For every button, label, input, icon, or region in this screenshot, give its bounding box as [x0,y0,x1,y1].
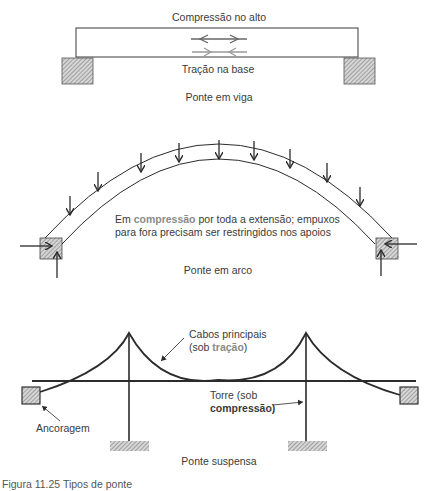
tower-label-line1: Torre (sob [210,389,257,402]
beam-support-right [344,58,375,84]
cables-label-line1: Cabos principais [189,328,267,341]
beam-top-label: Compressão no alto [172,11,266,24]
figure-caption: Figura 11.25 Tipos de ponte [2,478,132,491]
tower-label-line2: compressão) [210,402,275,415]
beam-bridge-title: Ponte em viga [185,91,252,104]
compression-accent: compressão [134,213,196,225]
arch-bridge [20,140,417,278]
arch-bridge-title: Ponte em arco [184,264,252,277]
arch-note-line1: Em compressão por toda a extensão; empux… [115,213,340,226]
cables-leader-arrow [161,338,184,361]
load-arrows-icon [70,140,360,215]
tower-footing-right [288,441,327,451]
cables-label-line2: (sob tração) [189,341,247,354]
tower-leader-arrow [273,402,303,405]
tower-footing-left [110,441,149,451]
anchorage-label: Ancoragem [36,422,90,435]
tension-accent: tração [212,341,244,353]
beam-bottom-label: Tração na base [182,63,255,76]
arch-support-right [376,238,398,259]
beam [76,28,358,57]
anchorage-leader-arrow [42,406,60,421]
anchorage-right [400,387,418,404]
suspension-bridge-title: Ponte suspensa [181,455,256,468]
anchorage-left [22,387,40,404]
arch-note-line2: para fora precisam ser restringidos nos … [115,226,331,239]
arch-support-left [40,238,62,259]
beam-support-left [62,58,93,84]
